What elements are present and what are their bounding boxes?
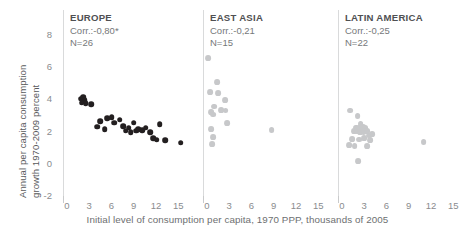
data-point [355,113,361,119]
y-axis-tick-4: 4 [28,94,52,104]
y-axis-tick-0: 0 [28,159,52,169]
data-point [162,138,168,144]
y-axis-label-line1: Annual per capita consumption [17,65,28,198]
x-axis-tick-12: 12 [291,201,302,211]
data-point [157,122,163,128]
x-axis-tick-12: 12 [426,201,437,211]
data-point [98,118,104,124]
data-point [102,126,108,132]
x-axis-tick-0: 0 [339,201,344,211]
y-axis-tick-6: 6 [28,62,52,72]
data-point [370,131,376,137]
data-point [349,136,355,142]
x-axis-label: Initial level of consumption per capita,… [0,214,475,225]
panel-latin-america: LATIN AMERICACorr.:-0,25N=22 [338,10,471,196]
x-axis-tick-9: 9 [131,201,136,211]
panel-europe: EUROPECorr.:-0,80*N=26 [63,10,196,196]
x-axis-tick-6: 6 [249,201,254,211]
scatter-chart-figure: Annual per capita consumption growth 197… [0,0,475,234]
panel-plot-area [203,10,336,196]
x-axis-tick-0: 0 [64,201,69,211]
x-axis: 03691215 [338,196,471,216]
x-axis-tick-15: 15 [173,201,184,211]
data-point [223,108,229,114]
data-point [209,126,215,132]
data-point [347,108,353,114]
data-point [421,139,427,145]
data-point [214,80,220,86]
x-axis-tick-12: 12 [151,201,162,211]
data-point [209,142,215,148]
data-point [364,143,370,149]
y-axis-tick-8: 8 [28,30,52,40]
data-point [224,120,230,126]
data-point [154,137,160,143]
y-axis-tick-neg2: -2 [28,191,52,201]
data-point [178,140,184,146]
x-axis-tick-3: 3 [227,201,232,211]
data-point [89,101,95,107]
x-axis-tick-15: 15 [448,201,459,211]
panel-east-asia: EAST ASIACorr.:-0,21N=15 [203,10,336,196]
y-axis-tick-2: 2 [28,127,52,137]
x-axis-tick-3: 3 [362,201,367,211]
x-axis-tick-0: 0 [204,201,209,211]
x-axis: 03691215 [63,196,196,216]
panel-plot-area [338,10,471,196]
data-point [361,135,367,141]
data-point [222,97,228,103]
data-point [210,112,216,118]
data-point [352,143,358,149]
x-axis: 03691215 [203,196,336,216]
data-point [215,90,221,96]
data-point [269,127,275,133]
data-point [355,158,361,164]
data-point [206,55,212,61]
x-axis-tick-15: 15 [313,201,324,211]
x-axis-tick-6: 6 [109,201,114,211]
data-point [95,124,101,130]
data-point [83,101,89,107]
data-point [117,117,123,123]
data-point [131,120,137,126]
panel-plot-area [63,10,196,196]
x-axis-tick-3: 3 [87,201,92,211]
x-axis-tick-6: 6 [384,201,389,211]
x-axis-tick-9: 9 [406,201,411,211]
data-point [210,134,216,140]
data-point [207,89,213,95]
x-axis-tick-9: 9 [271,201,276,211]
